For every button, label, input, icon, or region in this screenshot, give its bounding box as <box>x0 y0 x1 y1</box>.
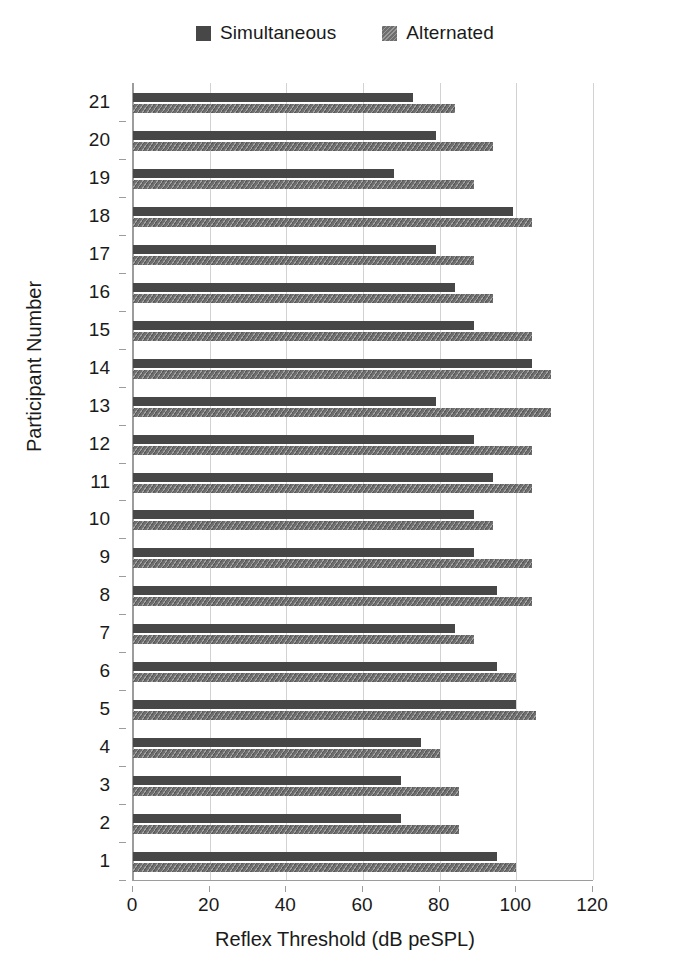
y-tick-mark-20 <box>119 159 126 160</box>
x-axis-tick-labels: 020406080100120 <box>132 886 593 916</box>
bar-alternated-participant-17 <box>133 256 474 265</box>
bar-alternated-participant-4 <box>133 749 440 758</box>
y-tick-label-4: 4 <box>99 736 110 758</box>
y-tick-label-15: 15 <box>89 319 110 341</box>
bar-alternated-participant-1 <box>133 863 516 872</box>
x-tick-label-80: 80 <box>428 894 449 916</box>
y-tick-label-6: 6 <box>99 660 110 682</box>
y-tick-label-11: 11 <box>90 471 110 493</box>
bar-simultaneous-participant-10 <box>133 510 474 519</box>
bar-simultaneous-participant-2 <box>133 814 401 823</box>
y-tick-mark-19 <box>119 197 126 198</box>
y-tick-label-9: 9 <box>99 546 110 568</box>
y-tick-label-3: 3 <box>99 774 110 796</box>
legend-entry-simultaneous: Simultaneous <box>196 22 336 44</box>
y-tick-label-21: 21 <box>89 91 110 113</box>
y-tick-label-18: 18 <box>89 205 110 227</box>
y-tick-mark-2 <box>119 842 126 843</box>
y-tick-mark-15 <box>119 349 126 350</box>
x-tick-mark-20 <box>209 886 210 892</box>
y-tick-mark-13 <box>119 425 126 426</box>
bar-alternated-participant-6 <box>133 673 516 682</box>
bar-alternated-participant-3 <box>133 787 459 796</box>
bar-simultaneous-participant-18 <box>133 207 513 216</box>
y-tick-label-1: 1 <box>99 850 110 872</box>
bar-simultaneous-participant-15 <box>133 321 474 330</box>
bar-simultaneous-participant-7 <box>133 624 455 633</box>
y-axis-tick-labels: 123456789101112131415161718192021 <box>0 83 126 880</box>
y-tick-label-14: 14 <box>89 357 110 379</box>
bar-alternated-participant-14 <box>133 370 551 379</box>
y-tick-mark-9 <box>119 576 126 577</box>
x-tick-label-0: 0 <box>127 894 138 916</box>
bar-alternated-participant-10 <box>133 521 493 530</box>
x-tick-mark-0 <box>132 886 133 892</box>
legend-swatch-simultaneous-icon <box>196 26 211 41</box>
y-tick-mark-11 <box>119 500 126 501</box>
y-tick-label-16: 16 <box>89 281 110 303</box>
y-tick-mark-18 <box>119 235 126 236</box>
y-tick-mark-1 <box>119 880 126 881</box>
y-tick-label-20: 20 <box>89 129 110 151</box>
y-tick-label-7: 7 <box>99 622 110 644</box>
x-tick-label-40: 40 <box>275 894 296 916</box>
bar-alternated-participant-9 <box>133 559 532 568</box>
bar-simultaneous-participant-8 <box>133 586 497 595</box>
bar-alternated-participant-19 <box>133 180 474 189</box>
x-tick-mark-60 <box>362 886 363 892</box>
bar-simultaneous-participant-13 <box>133 397 436 406</box>
plot-area <box>132 83 592 880</box>
y-tick-mark-17 <box>119 273 126 274</box>
legend-entry-alternated: Alternated <box>382 22 494 44</box>
x-tick-label-20: 20 <box>198 894 219 916</box>
bar-simultaneous-participant-3 <box>133 776 401 785</box>
x-tick-label-100: 100 <box>499 894 531 916</box>
y-tick-mark-10 <box>119 538 126 539</box>
x-tick-mark-80 <box>439 886 440 892</box>
bar-alternated-participant-8 <box>133 597 532 606</box>
bar-alternated-participant-5 <box>133 711 536 720</box>
y-tick-label-17: 17 <box>89 243 110 265</box>
bar-simultaneous-participant-20 <box>133 131 436 140</box>
bar-simultaneous-participant-1 <box>133 852 497 861</box>
y-tick-label-10: 10 <box>89 508 110 530</box>
bar-alternated-participant-15 <box>133 332 532 341</box>
y-tick-mark-5 <box>119 728 126 729</box>
legend-label-simultaneous: Simultaneous <box>220 22 336 44</box>
x-tick-mark-120 <box>592 886 593 892</box>
bar-simultaneous-participant-5 <box>133 700 516 709</box>
bar-simultaneous-participant-14 <box>133 359 532 368</box>
bar-simultaneous-participant-16 <box>133 283 455 292</box>
bar-alternated-participant-2 <box>133 825 459 834</box>
bar-simultaneous-participant-4 <box>133 738 421 747</box>
x-axis-title: Reflex Threshold (dB peSPL) <box>0 928 690 951</box>
x-tick-label-60: 60 <box>351 894 372 916</box>
bar-alternated-participant-11 <box>133 484 532 493</box>
bar-series-container <box>133 83 592 880</box>
chart-legend: Simultaneous Alternated <box>0 22 690 44</box>
bar-alternated-participant-7 <box>133 635 474 644</box>
y-tick-mark-8 <box>119 614 126 615</box>
y-tick-mark-7 <box>119 652 126 653</box>
y-tick-label-5: 5 <box>99 698 110 720</box>
bar-alternated-participant-16 <box>133 294 493 303</box>
x-tick-mark-100 <box>515 886 516 892</box>
bar-alternated-participant-18 <box>133 218 532 227</box>
bar-alternated-participant-13 <box>133 408 551 417</box>
bar-simultaneous-participant-17 <box>133 245 436 254</box>
x-tick-mark-40 <box>285 886 286 892</box>
bar-simultaneous-participant-12 <box>133 435 474 444</box>
bar-alternated-participant-21 <box>133 104 455 113</box>
legend-label-alternated: Alternated <box>406 22 494 44</box>
gridline-120 <box>593 83 594 880</box>
bar-simultaneous-participant-21 <box>133 93 413 102</box>
bar-simultaneous-participant-11 <box>133 473 493 482</box>
y-tick-label-12: 12 <box>89 433 110 455</box>
x-tick-label-120: 120 <box>576 894 608 916</box>
bar-alternated-participant-12 <box>133 446 532 455</box>
bar-chart-figure: Simultaneous Alternated Participant Numb… <box>0 0 690 978</box>
x-axis-line <box>132 880 593 881</box>
y-tick-label-2: 2 <box>99 812 110 834</box>
bar-simultaneous-participant-9 <box>133 548 474 557</box>
y-tick-label-13: 13 <box>89 395 110 417</box>
